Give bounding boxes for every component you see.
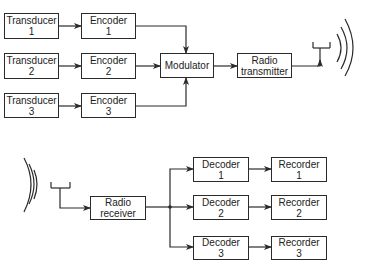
- decoder-2-block: Decoder 2: [193, 195, 249, 220]
- recorder-2-block: Recorder 2: [271, 195, 327, 220]
- radio-transmitter-block: Radio transmitter: [237, 53, 292, 78]
- transmit-antenna-icon: [313, 42, 330, 66]
- recorder-1-block: Recorder 1: [271, 157, 327, 182]
- encoder-3-block: Encoder 3: [81, 93, 136, 118]
- encoder-2-block: Encoder 2: [81, 53, 136, 79]
- encoder-1-block: Encoder 1: [81, 13, 136, 39]
- receive-antenna-icon: [51, 182, 70, 191]
- connection-lines: [0, 0, 367, 270]
- transducer-2-block: Transducer 2: [4, 53, 59, 79]
- recorder-3-block: Recorder 3: [271, 236, 327, 260]
- transducer-1-block: Transducer 1: [4, 13, 59, 39]
- modulator-block: Modulator: [160, 53, 214, 78]
- transmit-waves-icon: [337, 19, 353, 76]
- telemetry-block-diagram: Transducer 1 Encoder 1 Transducer 2 Enco…: [0, 0, 367, 270]
- receive-waves-icon: [24, 158, 37, 212]
- decoder-1-block: Decoder 1: [193, 157, 249, 182]
- junction-dot: [168, 205, 172, 209]
- decoder-3-block: Decoder 3: [193, 236, 249, 260]
- radio-receiver-block: Radio receiver: [90, 196, 146, 220]
- transducer-3-block: Transducer 3: [4, 93, 59, 118]
